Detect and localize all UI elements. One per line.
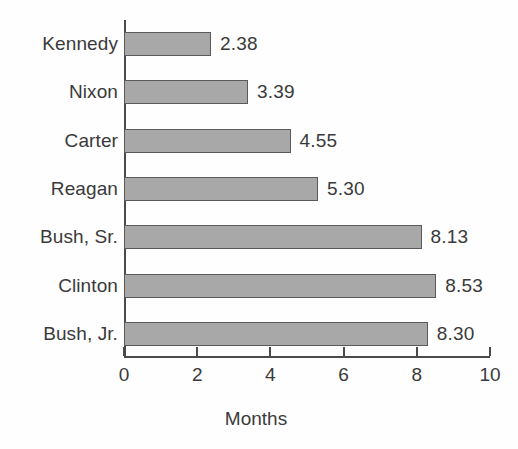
category-label: Bush, Jr. [0,323,118,345]
bar-chart: KennedyNixonCarterReaganBush, Sr.Clinton… [0,0,518,449]
x-axis-tick-labels: 0246810 [124,0,490,449]
x-axis-title-text: Months [225,408,287,430]
x-axis-tick-label: 0 [119,364,130,386]
x-axis-tick-label: 10 [479,364,500,386]
x-axis-title: Months [0,408,518,430]
x-axis-tick-label: 2 [192,364,203,386]
category-axis-labels: KennedyNixonCarterReaganBush, Sr.Clinton… [0,20,118,358]
category-label: Clinton [0,275,118,297]
x-axis-tick-label: 4 [265,364,276,386]
x-axis-tick-label: 6 [338,364,349,386]
category-label: Kennedy [0,33,118,55]
category-label: Bush, Sr. [0,226,118,248]
category-label: Reagan [0,178,118,200]
category-label: Nixon [0,81,118,103]
category-label: Carter [0,130,118,152]
x-axis-tick-label: 8 [412,364,423,386]
